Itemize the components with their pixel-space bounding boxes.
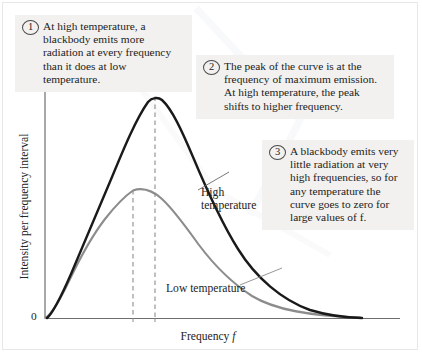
origin-label: 0 bbox=[31, 310, 37, 322]
callout-1: 1 At high temperature, a blackbody emits… bbox=[15, 15, 192, 92]
x-axis-label: Frequency f bbox=[148, 330, 268, 343]
x-axis-label-prefix: Frequency bbox=[180, 330, 232, 343]
callout-2-text: The peak of the curve is at the frequenc… bbox=[224, 60, 387, 113]
high-temperature-label: High temperature bbox=[201, 186, 275, 213]
x-axis-label-symbol: f bbox=[232, 330, 235, 343]
callout-3-text: A blackbody emits very little radiation … bbox=[290, 145, 407, 224]
callout-3: 3 A blackbody emits very little radiatio… bbox=[262, 140, 414, 230]
callout-1-text: At high temperature, a blackbody emits m… bbox=[43, 20, 185, 86]
blackbody-radiation-figure: 1 At high temperature, a blackbody emits… bbox=[0, 0, 422, 354]
callout-2-number: 2 bbox=[203, 60, 220, 75]
low-temperature-label: Low temperature bbox=[166, 282, 276, 295]
y-axis-label: Intensity per frequency interval bbox=[18, 122, 31, 292]
callout-1-number: 1 bbox=[22, 20, 39, 35]
callout-2: 2 The peak of the curve is at the freque… bbox=[196, 55, 394, 119]
callout-3-number: 3 bbox=[269, 145, 286, 160]
